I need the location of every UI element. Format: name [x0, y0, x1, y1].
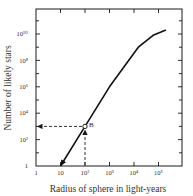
x-axis-label: Radius of sphere in light-years — [50, 184, 167, 194]
x-tick-label: 10⁵ — [154, 169, 163, 176]
x-tick-label: 10³ — [105, 169, 114, 176]
y-tick-labels: 110²10⁴10⁶10⁸10¹⁰ — [17, 30, 29, 169]
point-b-marker — [83, 124, 87, 128]
y-tick-label: 10⁸ — [19, 57, 29, 64]
x-tick-labels: 11010²10³10⁴10⁵ — [34, 169, 163, 176]
y-tick-label: 10¹⁰ — [17, 30, 28, 37]
x-tick-label: 10² — [81, 169, 90, 176]
y-tick-label: 10⁴ — [19, 109, 29, 116]
y-tick-label: 1 — [25, 162, 28, 169]
y-axis-label: Number of likely stars — [3, 45, 13, 131]
x-tick-label: 1 — [34, 169, 37, 176]
chart: 11010²10³10⁴10⁵ 110²10⁴10⁶10⁸10¹⁰ B Radi… — [0, 0, 193, 196]
data-curve — [61, 30, 166, 166]
x-tick-label: 10 — [57, 169, 64, 176]
x-tick-label: 10⁴ — [130, 169, 140, 176]
y-tick-label: 10⁶ — [19, 83, 28, 90]
y-tick-label: 10² — [20, 136, 29, 143]
point-b-label: B — [89, 121, 94, 129]
